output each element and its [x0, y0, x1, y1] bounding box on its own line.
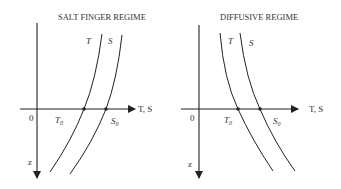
z-axis-label: z	[28, 157, 32, 167]
temperature-curve	[220, 33, 273, 171]
temperature-curve	[50, 34, 102, 172]
panel-title: DIFFUSIVE REGIME	[220, 12, 298, 22]
origin-label: 0	[190, 113, 195, 123]
x-axis-label: T, S	[138, 104, 152, 114]
s0-label: S0	[273, 116, 281, 127]
diagram-canvas: SALT FINGER REGIME T S 0 T, S z T0 S0 DI…	[0, 0, 341, 189]
t0-label: T0	[224, 115, 232, 126]
salinity-curve	[70, 35, 122, 174]
z-axis-label: z	[188, 159, 192, 169]
s0-point	[104, 107, 108, 111]
s0-point	[258, 107, 262, 111]
panel-diffusive: DIFFUSIVE REGIME T S 0 T, S z T0 S0	[181, 12, 323, 178]
s-curve-label: S	[249, 38, 254, 48]
panel-salt-finger: SALT FINGER REGIME T S 0 T, S z T0 S0	[20, 12, 152, 178]
x-axis-label: T, S	[309, 104, 323, 114]
t0-point	[82, 107, 86, 111]
origin-label: 0	[29, 113, 34, 123]
t-curve-label: T	[228, 36, 234, 46]
panel-title: SALT FINGER REGIME	[58, 12, 146, 22]
s-curve-label: S	[108, 36, 113, 46]
t-curve-label: T	[86, 36, 92, 46]
t0-label: T0	[55, 115, 63, 126]
s0-label: S0	[111, 116, 119, 127]
salinity-curve	[240, 33, 295, 171]
t0-point	[236, 107, 240, 111]
